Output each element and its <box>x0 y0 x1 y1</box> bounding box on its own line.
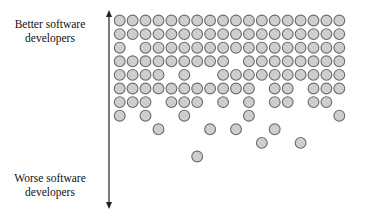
developer-circle <box>192 15 203 26</box>
developer-circle <box>166 42 177 53</box>
developer-circle <box>114 83 125 94</box>
developer-circle <box>334 42 345 53</box>
arrow-up-icon <box>106 10 112 17</box>
developer-circle <box>321 97 332 108</box>
developer-circle <box>282 42 293 53</box>
developer-circle <box>205 83 216 94</box>
developer-circle <box>192 56 203 67</box>
developer-circle <box>334 70 345 81</box>
developer-circle <box>179 110 190 121</box>
developer-circle <box>166 83 177 94</box>
developer-circle <box>140 56 151 67</box>
developer-circle <box>218 97 229 108</box>
vertical-axis <box>106 10 112 209</box>
developer-circle <box>153 56 164 67</box>
developer-circle <box>334 29 345 40</box>
developer-circle <box>334 56 345 67</box>
developer-circle <box>244 42 255 53</box>
developer-circle <box>218 70 229 81</box>
developer-circle <box>166 97 177 108</box>
developer-distribution-diagram <box>0 0 373 220</box>
developer-circle <box>282 56 293 67</box>
developer-circle <box>140 97 151 108</box>
developer-circle <box>308 70 319 81</box>
developer-circle <box>205 29 216 40</box>
developer-circle <box>244 97 255 108</box>
developer-circle <box>244 110 255 121</box>
developer-circle <box>114 110 125 121</box>
developer-circle <box>218 83 229 94</box>
developer-circle <box>114 15 125 26</box>
developer-circle <box>127 29 138 40</box>
developer-circle <box>295 42 306 53</box>
developer-circle <box>127 97 138 108</box>
developer-circle <box>308 83 319 94</box>
developer-circle <box>244 15 255 26</box>
developer-circle <box>140 29 151 40</box>
developer-circle <box>244 29 255 40</box>
developer-circle <box>114 29 125 40</box>
developer-circle <box>282 15 293 26</box>
developer-circle <box>269 124 280 135</box>
developer-circle <box>192 151 203 162</box>
developer-circle <box>192 83 203 94</box>
developer-circle <box>179 70 190 81</box>
developer-circle <box>231 42 242 53</box>
developer-circle <box>205 15 216 26</box>
developer-circle <box>321 83 332 94</box>
developer-circle <box>205 124 216 135</box>
developer-circle <box>256 29 267 40</box>
developer-circle <box>114 70 125 81</box>
developer-circle <box>153 124 164 135</box>
developer-circle <box>153 83 164 94</box>
developer-circle <box>308 42 319 53</box>
developer-circle <box>308 29 319 40</box>
developer-circle <box>269 83 280 94</box>
developer-circle <box>321 29 332 40</box>
developer-circle <box>256 15 267 26</box>
developer-circle <box>127 70 138 81</box>
developer-circle <box>231 124 242 135</box>
developer-circle <box>153 15 164 26</box>
developer-circle <box>334 83 345 94</box>
developer-circle <box>269 42 280 53</box>
developer-circle <box>205 42 216 53</box>
developer-circle <box>218 56 229 67</box>
developer-circle <box>282 83 293 94</box>
developer-circles <box>114 15 344 162</box>
developer-circle <box>269 56 280 67</box>
developer-circle <box>127 56 138 67</box>
developer-circle <box>231 70 242 81</box>
developer-circle <box>295 15 306 26</box>
developer-circle <box>334 15 345 26</box>
developer-circle <box>140 110 151 121</box>
developer-circle <box>308 97 319 108</box>
developer-circle <box>244 83 255 94</box>
developer-circle <box>256 138 267 149</box>
developer-circle <box>218 15 229 26</box>
developer-circle <box>308 56 319 67</box>
developer-circle <box>114 42 125 53</box>
developer-circle <box>192 29 203 40</box>
developer-circle <box>166 15 177 26</box>
developer-circle <box>269 29 280 40</box>
developer-circle <box>166 29 177 40</box>
developer-circle <box>269 15 280 26</box>
developer-circle <box>308 15 319 26</box>
developer-circle <box>231 15 242 26</box>
arrow-down-icon <box>106 202 112 209</box>
developer-circle <box>282 97 293 108</box>
developer-circle <box>321 42 332 53</box>
developer-circle <box>153 29 164 40</box>
developer-circle <box>282 29 293 40</box>
developer-circle <box>269 97 280 108</box>
developer-circle <box>140 42 151 53</box>
developer-circle <box>127 15 138 26</box>
developer-circle <box>140 70 151 81</box>
developer-circle <box>140 15 151 26</box>
developer-circle <box>321 15 332 26</box>
developer-circle <box>218 42 229 53</box>
developer-circle <box>231 83 242 94</box>
developer-circle <box>114 56 125 67</box>
developer-circle <box>179 42 190 53</box>
